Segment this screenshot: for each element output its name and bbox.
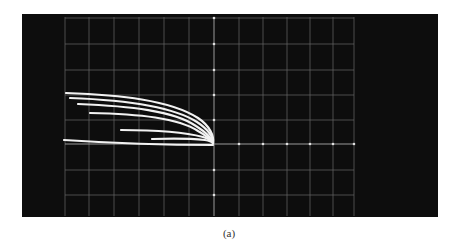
graticule-center-axes xyxy=(65,17,354,216)
trace-6 xyxy=(152,139,213,143)
trace-3 xyxy=(78,104,213,143)
figure-caption: (a) xyxy=(0,227,458,239)
graticule-grid xyxy=(65,17,354,216)
oscilloscope-figure: (a) xyxy=(0,0,458,247)
graticule-and-traces xyxy=(22,14,438,217)
signal-traces xyxy=(64,93,213,145)
oscilloscope-screen xyxy=(22,14,438,217)
